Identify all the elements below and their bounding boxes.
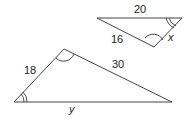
large-double-arc-2 xyxy=(21,94,24,102)
label-y: y xyxy=(69,104,75,115)
diagram-canvas xyxy=(0,0,190,119)
large-triangle xyxy=(14,49,172,102)
small-angle-arc xyxy=(145,34,163,40)
label-18: 18 xyxy=(24,65,36,76)
label-20: 20 xyxy=(134,4,146,15)
label-16: 16 xyxy=(111,34,123,45)
label-30: 30 xyxy=(112,59,124,70)
label-x: x xyxy=(168,32,174,43)
